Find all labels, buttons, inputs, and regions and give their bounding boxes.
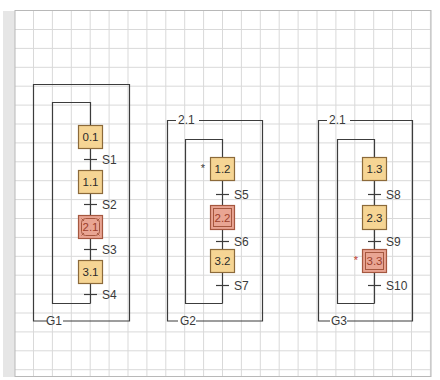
svg-text:S6: S6 xyxy=(234,235,249,249)
g1-label: G1 xyxy=(46,314,62,328)
initial-mark-1-2: * xyxy=(201,162,206,174)
svg-text:S7: S7 xyxy=(234,279,249,293)
svg-text:S10: S10 xyxy=(386,279,408,293)
g2-label: G2 xyxy=(180,314,196,328)
svg-text:S9: S9 xyxy=(386,235,401,249)
g3-header-label: 2.1 xyxy=(329,113,346,127)
step-1-3[interactable]: 1.3 xyxy=(363,158,387,181)
transition-s7[interactable]: S7 xyxy=(216,279,249,293)
enclosing-step-3-3[interactable]: 3.3 xyxy=(363,250,387,273)
group-g1[interactable]: G1 0.1 S1 1.1 S2 xyxy=(34,85,130,329)
initial-mark-3-3: * xyxy=(354,254,359,266)
svg-text:S8: S8 xyxy=(386,188,401,202)
transition-s4[interactable]: S4 xyxy=(84,288,117,302)
step-2-3[interactable]: 2.3 xyxy=(363,206,387,230)
grafcet-canvas: G1 0.1 S1 1.1 S2 xyxy=(0,0,440,380)
svg-text:1.3: 1.3 xyxy=(367,163,383,175)
transition-s3[interactable]: S3 xyxy=(84,243,117,257)
macro-step-2-1[interactable]: 2.1 xyxy=(79,216,103,239)
svg-text:S4: S4 xyxy=(102,288,117,302)
svg-text:1.1: 1.1 xyxy=(83,176,99,188)
enclosing-step-2-2[interactable]: 2.2 xyxy=(211,206,235,230)
step-3-1[interactable]: 3.1 xyxy=(79,261,103,284)
diagram-svg: G1 0.1 S1 1.1 S2 xyxy=(0,0,440,380)
g2-header-label: 2.1 xyxy=(178,113,195,127)
svg-text:2.1: 2.1 xyxy=(83,221,99,233)
transition-s1[interactable]: S1 xyxy=(84,153,117,167)
svg-text:2.3: 2.3 xyxy=(367,212,383,224)
step-1-1[interactable]: 1.1 xyxy=(79,171,103,194)
svg-text:S3: S3 xyxy=(102,243,117,257)
g3-label: G3 xyxy=(331,314,347,328)
svg-text:S2: S2 xyxy=(102,198,117,212)
group-g3[interactable]: 2.1 G3 1.3 S8 2.3 S9 * 3.3 xyxy=(319,113,413,328)
step-1-2[interactable]: 1.2 xyxy=(211,158,235,181)
step-3-2[interactable]: 3.2 xyxy=(211,250,235,273)
svg-text:S1: S1 xyxy=(102,153,117,167)
svg-text:3.3: 3.3 xyxy=(367,255,383,267)
step-0-1[interactable]: 0.1 xyxy=(79,126,103,149)
svg-text:1.2: 1.2 xyxy=(215,163,231,175)
svg-text:3.1: 3.1 xyxy=(83,266,99,278)
group-g2[interactable]: 2.1 G2 * 1.2 S5 2.2 S6 3.2 xyxy=(168,113,263,328)
svg-text:3.2: 3.2 xyxy=(215,255,231,267)
svg-text:S5: S5 xyxy=(234,188,249,202)
svg-text:2.2: 2.2 xyxy=(215,212,231,224)
svg-text:0.1: 0.1 xyxy=(83,131,99,143)
